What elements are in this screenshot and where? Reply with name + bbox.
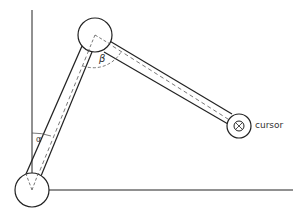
link-forearm [95, 35, 239, 126]
arm-diagram [0, 0, 293, 218]
link-upper-arm [26, 35, 95, 190]
alpha-arc [32, 133, 51, 136]
alpha-label: α [36, 136, 41, 144]
cursor-label: cursor [255, 121, 283, 130]
beta-label: β [99, 54, 105, 64]
